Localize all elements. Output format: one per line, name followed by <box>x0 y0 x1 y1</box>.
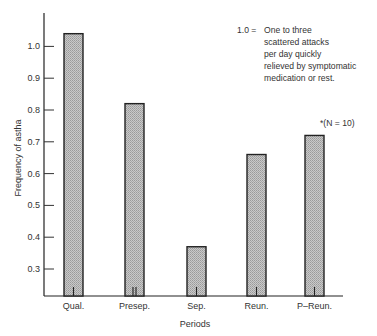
y-tick-label: 0.6 <box>27 169 40 179</box>
scale-description-line: relieved by symptomatic <box>264 60 356 72</box>
y-tick-label: 0.5 <box>27 200 40 210</box>
y-axis-title: Frequency of astha <box>13 119 23 196</box>
scale-description-line: medication or rest. <box>264 72 356 84</box>
y-tick-label: 0.9 <box>27 73 40 83</box>
category-labels: Qual.Presep.Sep.Reun.P–Reun. <box>63 301 332 311</box>
x-category-label: Reun. <box>244 301 268 311</box>
scale-description: One to three scattered attacks per day q… <box>264 24 356 84</box>
scale-description-line: per day quickly <box>264 48 356 60</box>
bar <box>305 135 324 296</box>
y-tick-label: 0.4 <box>27 232 40 242</box>
y-tick-label: 0.7 <box>27 137 40 147</box>
bar <box>125 104 144 296</box>
y-tick-label: 1.0 <box>27 41 40 51</box>
x-category-label: P–Reun. <box>297 301 332 311</box>
y-tick-label: 0.3 <box>27 264 40 274</box>
scale-key-label: 1.0 = <box>237 24 256 36</box>
x-category-label: Sep. <box>187 301 206 311</box>
y-tick-label: 0.8 <box>27 105 40 115</box>
y-axis: 1.00.90.80.70.60.50.40.3 <box>27 13 54 296</box>
x-axis-title: Periods <box>180 319 211 329</box>
bar <box>64 34 83 296</box>
x-category-label: Qual. <box>63 301 85 311</box>
scale-description-line: scattered attacks <box>264 36 356 48</box>
x-category-label: Presep. <box>119 301 150 311</box>
scale-description-line: One to three <box>264 24 356 36</box>
sample-size-note: *(N = 10) <box>320 118 355 128</box>
bar <box>247 155 266 296</box>
